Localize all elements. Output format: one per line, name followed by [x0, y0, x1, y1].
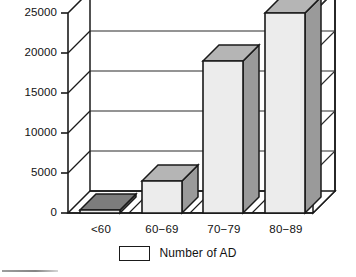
- scan-artifact-line: [2, 270, 58, 272]
- x-tick-label-80-89: 80−89: [255, 224, 317, 236]
- bar-70-79: [203, 45, 259, 213]
- x-tick-label-60-69: 60−69: [131, 224, 193, 236]
- y-tick-label-15000: 15000: [0, 87, 57, 99]
- y-tick-label-0: 0: [0, 207, 57, 219]
- y-tick-label-20000: 20000: [0, 47, 57, 59]
- y-axis: [68, 0, 90, 213]
- bar-80-89: [265, 0, 321, 213]
- y-tick-label-25000: 25000: [0, 7, 57, 19]
- legend-swatch-number-of-ad: [119, 246, 150, 261]
- bar-60-69: [142, 165, 198, 213]
- x-tick-label-lt-60: <60: [70, 224, 132, 236]
- y-tick-label-10000: 10000: [0, 127, 57, 139]
- bar-chart: 25000 20000 15000 10000 5000 0 <60 60−69…: [0, 0, 356, 277]
- x-tick-label-70-79: 70−79: [193, 224, 255, 236]
- chart-legend: Number of AD: [0, 240, 356, 266]
- legend-label-number-of-ad: Number of AD: [159, 247, 236, 259]
- y-tick-label-5000: 5000: [0, 167, 57, 179]
- y-axis-ticks: [61, 13, 90, 213]
